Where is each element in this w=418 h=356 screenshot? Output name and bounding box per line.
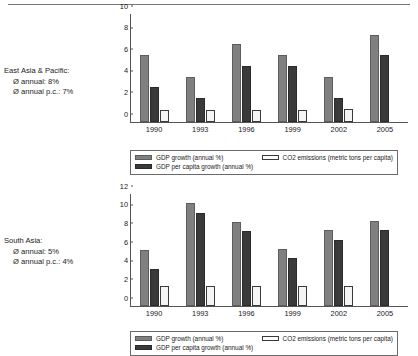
bar-group: 1999	[270, 194, 316, 306]
bar-group: 2002	[316, 194, 362, 306]
bar	[242, 66, 251, 122]
bar	[150, 269, 159, 306]
bar	[232, 222, 241, 306]
legend-swatch-co2-emissions-icon	[262, 336, 279, 341]
bar	[298, 286, 307, 306]
bar-group: 2005	[362, 14, 408, 122]
chart-south-asia: South Asia: Ø annual: 5% Ø annual p.c.: …	[0, 188, 418, 353]
legend-label-gdp-per-capita-growth: GDP per capita growth (annual %)	[156, 344, 253, 352]
y-axis-tick-label: 10	[120, 200, 131, 209]
bar	[334, 98, 343, 122]
bar	[324, 77, 333, 122]
plot-area-wrapper-south-asia: 024681012 199019931996199920022005	[108, 194, 408, 307]
legend-label-gdp-growth: GDP growth (annual %)	[156, 154, 223, 162]
bar	[288, 258, 297, 306]
x-axis-tick-label: 1996	[223, 125, 269, 134]
y-axis-tick-label: 8	[124, 23, 131, 32]
bar	[232, 44, 241, 122]
legend-swatch-gdp-per-capita-growth-icon	[135, 345, 152, 350]
y-axis-tick-label: 2	[124, 274, 131, 283]
bar	[186, 77, 195, 122]
y-axis-tick-label: 6	[124, 44, 131, 53]
legend-swatch-gdp-per-capita-growth-icon	[135, 164, 152, 169]
bar	[278, 55, 287, 122]
bar	[160, 110, 169, 122]
bar	[370, 221, 379, 306]
legend-label-co2-emissions: CO2 emissions (metric tons per capita)	[283, 154, 393, 162]
chart-caption-east-asia-pacific: East Asia & Pacific: Ø annual: 8% Ø annu…	[4, 66, 108, 98]
legend-item-co2-emissions: CO2 emissions (metric tons per capita)	[262, 154, 393, 162]
x-axis-tick-label: 1999	[270, 125, 316, 134]
legend-column-right: CO2 emissions (metric tons per capita)	[262, 153, 393, 171]
bar	[344, 109, 353, 122]
bar-group: 1993	[177, 14, 223, 122]
plot-area-east-asia-pacific: 0246810 199019931996199920022005	[130, 14, 408, 123]
legend-south-asia: GDP growth (annual %) GDP per capita gro…	[130, 331, 398, 356]
x-axis-tick-label: 1993	[177, 309, 223, 318]
top-divider-rule	[8, 4, 410, 5]
y-axis-tick-label: 0	[124, 109, 131, 118]
bar	[298, 110, 307, 122]
chart-caption-south-asia: South Asia: Ø annual: 5% Ø annual p.c.: …	[4, 236, 108, 268]
bar-group: 1990	[131, 14, 177, 122]
x-axis-tick-label: 1999	[270, 309, 316, 318]
plot-area-wrapper-east-asia-pacific: 0246810 199019931996199920022005	[108, 14, 408, 123]
legend-item-gdp-per-capita-growth: GDP per capita growth (annual %)	[135, 163, 262, 171]
legend-label-gdp-per-capita-growth: GDP per capita growth (annual %)	[156, 163, 253, 171]
bar	[344, 286, 353, 306]
bar	[150, 87, 159, 122]
x-axis-tick-label: 2005	[362, 309, 408, 318]
chart-east-asia-pacific: East Asia & Pacific: Ø annual: 8% Ø annu…	[0, 8, 418, 176]
bar-groups-south-asia: 199019931996199920022005	[131, 194, 408, 306]
legend-column-left: GDP growth (annual %) GDP per capita gro…	[135, 334, 262, 352]
x-axis-tick-label: 2002	[316, 125, 362, 134]
bar	[252, 286, 261, 306]
legend-east-asia-pacific: GDP growth (annual %) GDP per capita gro…	[130, 150, 398, 175]
bar	[278, 249, 287, 306]
y-axis-tick-label: 2	[124, 87, 131, 96]
legend-swatch-co2-emissions-icon	[262, 155, 279, 160]
x-axis-tick-label: 1990	[131, 309, 177, 318]
x-axis-tick-label: 1996	[223, 309, 269, 318]
legend-label-gdp-growth: GDP growth (annual %)	[156, 335, 223, 343]
plot-area-south-asia: 024681012 199019931996199920022005	[130, 194, 408, 307]
bar-group: 1999	[270, 14, 316, 122]
bar	[288, 66, 297, 122]
caption-annual-per-capita-average: Ø annual p.c.: 7%	[4, 87, 108, 98]
bar	[370, 35, 379, 122]
bar-group: 1993	[177, 194, 223, 306]
caption-annual-average: Ø annual: 5%	[4, 247, 108, 258]
caption-region-name: East Asia & Pacific:	[4, 66, 108, 77]
legend-item-gdp-per-capita-growth: GDP per capita growth (annual %)	[135, 344, 262, 352]
legend-column-right: CO2 emissions (metric tons per capita)	[262, 334, 393, 352]
bar-groups-east-asia-pacific: 199019931996199920022005	[131, 14, 408, 122]
bar	[196, 98, 205, 122]
y-axis-tick-label: 4	[124, 256, 131, 265]
bar-group: 1990	[131, 194, 177, 306]
y-axis-tick-label: 6	[124, 237, 131, 246]
y-axis-tick-label: 8	[124, 218, 131, 227]
legend-swatch-gdp-growth-icon	[135, 155, 152, 160]
y-axis-tick-label: 4	[124, 66, 131, 75]
caption-annual-average: Ø annual: 8%	[4, 77, 108, 88]
bar-group: 1996	[223, 14, 269, 122]
x-axis-tick-label: 2005	[362, 125, 408, 134]
bar	[324, 230, 333, 306]
caption-region-name: South Asia:	[4, 236, 108, 247]
bar-group: 2005	[362, 194, 408, 306]
bar	[140, 55, 149, 122]
bar-group: 2002	[316, 14, 362, 122]
y-axis-tick-label: 12	[120, 181, 131, 190]
bar	[186, 203, 195, 306]
bar	[380, 55, 389, 122]
legend-label-co2-emissions: CO2 emissions (metric tons per capita)	[283, 335, 393, 343]
legend-item-gdp-growth: GDP growth (annual %)	[135, 335, 262, 343]
bar	[252, 110, 261, 122]
caption-annual-per-capita-average: Ø annual p.c.: 4%	[4, 257, 108, 268]
bar	[160, 286, 169, 306]
bar	[140, 250, 149, 306]
bar	[380, 230, 389, 306]
legend-item-co2-emissions: CO2 emissions (metric tons per capita)	[262, 335, 393, 343]
y-axis-tick-label: 0	[124, 293, 131, 302]
x-axis-tick-label: 1990	[131, 125, 177, 134]
